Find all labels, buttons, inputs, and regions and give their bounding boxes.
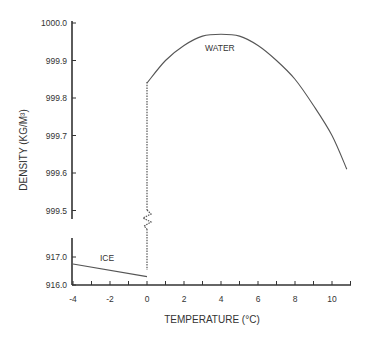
y-tick-label: 917.0 [46, 252, 68, 262]
x-tick-label: 8 [293, 294, 298, 304]
x-axis-title: TEMPERATURE (°C) [164, 314, 259, 325]
axis-break-zigzag-icon [143, 210, 151, 229]
y-tick-label: 999.5 [46, 206, 68, 216]
y-tick-label: 1000.0 [41, 18, 67, 28]
x-tick-label: 6 [256, 294, 261, 304]
y-tick-label: 999.8 [46, 93, 68, 103]
x-tick-label: 2 [182, 294, 187, 304]
y-upper-ticks: 1000.0999.9999.8999.7999.6999.5 [41, 18, 76, 216]
density-temperature-chart: 1000.0999.9999.8999.7999.6999.5 917.0916… [0, 0, 371, 337]
y-tick-label: 999.7 [46, 131, 68, 141]
x-tick-label: 4 [219, 294, 224, 304]
water-label: WATER [205, 43, 235, 53]
ice-series-line [73, 264, 147, 277]
x-tick-label: -4 [69, 294, 77, 304]
x-tick-label: -2 [106, 294, 114, 304]
y-axis-title: DENSITY (KG/M³) [18, 109, 29, 190]
y-tick-label: 999.6 [46, 168, 68, 178]
water-series-line [147, 34, 347, 169]
y-tick-label: 916.0 [46, 280, 68, 290]
x-tick-label: 10 [327, 294, 337, 304]
y-tick-label: 999.9 [46, 56, 68, 66]
ice-label: ICE [100, 253, 115, 263]
x-tick-label: 0 [145, 294, 150, 304]
